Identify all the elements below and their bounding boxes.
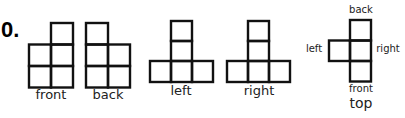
- left-view-label: left: [170, 83, 191, 98]
- right-view-grid: [227, 21, 290, 82]
- back-view-label: back: [93, 87, 124, 102]
- top-view-right-label: right: [376, 43, 400, 54]
- front-view-label: front: [36, 87, 67, 102]
- left-view-grid: [150, 21, 213, 82]
- right-view-label: right: [244, 83, 275, 98]
- top-view-left-label: left: [306, 43, 322, 54]
- top-view-label: top: [350, 95, 373, 111]
- top-view-grid: [329, 20, 371, 82]
- top-view-front-label: front: [349, 83, 373, 94]
- front-view-grid: [29, 23, 73, 88]
- back-view-grid: [86, 23, 130, 88]
- top-view-back-label: back: [349, 4, 373, 15]
